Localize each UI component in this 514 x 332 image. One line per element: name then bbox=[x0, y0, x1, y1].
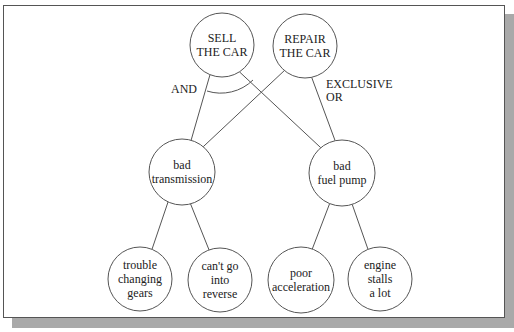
node-label-line: bad bbox=[173, 158, 190, 172]
node-sell: SELLTHE CAR bbox=[190, 13, 254, 77]
node-label-line: into bbox=[211, 273, 230, 287]
and-arc bbox=[207, 80, 253, 93]
node-label-line: REPAIR bbox=[284, 32, 326, 46]
node-label-line: a lot bbox=[370, 286, 392, 300]
and-label: AND bbox=[171, 82, 197, 96]
node-label-line: THE CAR bbox=[197, 45, 248, 59]
node-label-line: changing bbox=[118, 272, 162, 286]
node-stalls: enginestallsa lot bbox=[348, 247, 412, 311]
xor-label-line1: EXCLUSIVE bbox=[326, 77, 393, 91]
edge-sell-to-fuelpump bbox=[239, 72, 320, 148]
node-label-line: fuel pump bbox=[318, 173, 367, 187]
node-gears: troublechanginggears bbox=[108, 247, 172, 311]
node-label-line: trouble bbox=[123, 258, 157, 272]
edge-transmission-to-gears bbox=[152, 202, 168, 249]
node-accel: pooracceleration bbox=[268, 247, 334, 313]
xor-label-line2: OR bbox=[326, 90, 343, 104]
node-label-line: engine bbox=[364, 258, 396, 272]
node-label-line: THE CAR bbox=[280, 46, 331, 60]
node-label-line: stalls bbox=[368, 272, 393, 286]
node-reverse: can't gointoreverse bbox=[188, 248, 252, 312]
node-transmission: badtransmission bbox=[149, 139, 215, 205]
edge-transmission-to-reverse bbox=[191, 204, 210, 250]
node-label-line: bad bbox=[333, 159, 350, 173]
node-fuelpump: badfuel pump bbox=[309, 140, 375, 206]
node-label-line: poor bbox=[290, 266, 312, 280]
edge-fuelpump-to-stalls bbox=[352, 204, 368, 249]
node-label-line: gears bbox=[127, 286, 153, 300]
node-label-line: transmission bbox=[152, 172, 213, 186]
nodes: SELLTHE CARREPAIRTHE CARbadtransmissionb… bbox=[108, 13, 412, 313]
node-label-line: reverse bbox=[203, 287, 238, 301]
edge-fuelpump-to-accel bbox=[312, 204, 329, 249]
node-repair: REPAIRTHE CAR bbox=[273, 14, 337, 78]
node-label-line: SELL bbox=[208, 31, 237, 45]
node-label-line: can't go bbox=[201, 259, 238, 273]
node-label-line: acceleration bbox=[272, 280, 330, 294]
diagram-canvas: AND EXCLUSIVE OR SELLTHE CARREPAIRTHE CA… bbox=[0, 0, 514, 332]
edge-repair-to-transmission bbox=[203, 71, 284, 147]
